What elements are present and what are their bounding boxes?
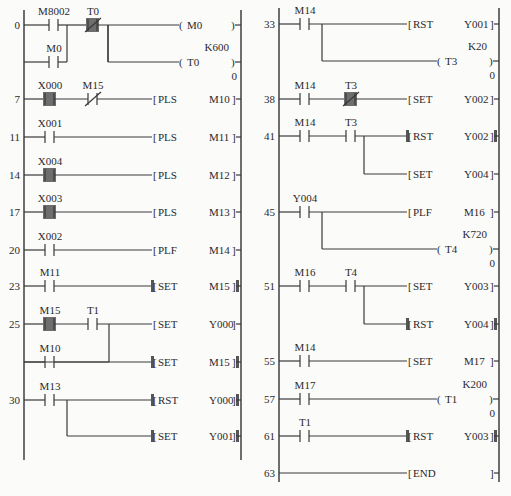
instruction-label: PLS bbox=[158, 93, 177, 105]
step-number: 30 bbox=[9, 394, 21, 406]
step-number: 17 bbox=[9, 206, 21, 218]
func-close-bracket: ] bbox=[490, 355, 494, 367]
output-pls: [PLSM11] bbox=[54, 131, 241, 143]
step-number: 61 bbox=[264, 430, 275, 442]
step-number: 51 bbox=[264, 280, 275, 292]
contact-t3: T3 bbox=[343, 79, 359, 106]
func-close-bracket: ] bbox=[490, 430, 494, 442]
func-open-bracket: [ bbox=[408, 318, 412, 330]
operand-label: M16 bbox=[464, 206, 485, 218]
instruction-label: PLF bbox=[158, 244, 177, 256]
instruction-label: END bbox=[413, 467, 436, 479]
output-set: [SETY000] bbox=[97, 318, 241, 330]
operand-label: Y002 bbox=[464, 93, 488, 105]
output-end: [END] bbox=[279, 467, 499, 479]
rung-step-20: 20X002[PLFM14] bbox=[9, 230, 241, 256]
contact-label: X003 bbox=[38, 192, 63, 204]
contact-label: X001 bbox=[38, 117, 62, 129]
operand-label: Y001 bbox=[464, 18, 488, 30]
contact-t3: T3 bbox=[345, 116, 358, 142]
func-close-bracket: ] bbox=[490, 280, 494, 292]
contact-label: M15 bbox=[40, 304, 61, 316]
output-t0: (T0)K6000 bbox=[108, 41, 241, 82]
step-number: 41 bbox=[264, 130, 275, 142]
func-close-bracket: ] bbox=[490, 318, 494, 330]
output-pls: [PLSM10] bbox=[97, 93, 241, 105]
output-set: [SETM15] bbox=[24, 356, 241, 368]
contact-m17: M17 bbox=[295, 379, 316, 405]
contact-label: M17 bbox=[295, 379, 316, 391]
instruction-label: RST bbox=[413, 318, 433, 330]
output-pls: [PLSM12] bbox=[54, 169, 241, 181]
step-number: 57 bbox=[264, 393, 276, 405]
rung-step-25: 25M15T1M10[SETY000][SETM15] bbox=[9, 304, 241, 368]
timer-current-value: 0 bbox=[490, 257, 496, 269]
rung-step-14: 14X004[PLSM12] bbox=[9, 155, 241, 182]
operand-label: Y004 bbox=[464, 318, 489, 330]
timer-current-value: 0 bbox=[232, 70, 238, 82]
operand-label: Y000 bbox=[209, 394, 234, 406]
contact-label: X004 bbox=[38, 155, 63, 167]
rung-step-17: 17X003[PLSM13] bbox=[9, 192, 241, 219]
output-set: [SETY002] bbox=[355, 93, 499, 105]
rung-step-0: 0M8002T0M0(M0)(T0)K6000 bbox=[15, 5, 242, 82]
coil-close-paren: ) bbox=[489, 243, 493, 256]
output-m0: (M0) bbox=[97, 19, 241, 32]
func-close-bracket: ] bbox=[232, 280, 236, 292]
timer-constant: K600 bbox=[205, 41, 230, 53]
operand-label: Y000 bbox=[209, 318, 234, 330]
contact-x002: X002 bbox=[38, 230, 62, 256]
rung-step-30: 30M13[RSTY000][SETY001] bbox=[9, 380, 241, 442]
contact-label: M8002 bbox=[38, 5, 70, 17]
contact-x004: X004 bbox=[38, 155, 63, 182]
instruction-label: PLS bbox=[158, 131, 177, 143]
rung-step-57: 57M17(T1)K2000 bbox=[264, 378, 499, 419]
func-open-bracket: [ bbox=[153, 93, 157, 105]
func-close-bracket: ] bbox=[232, 206, 236, 218]
step-number: 55 bbox=[264, 355, 276, 367]
coil-label: T1 bbox=[445, 393, 457, 405]
step-number: 25 bbox=[9, 318, 21, 330]
output-pls: [PLSM13] bbox=[54, 206, 241, 218]
func-open-bracket: [ bbox=[408, 18, 412, 30]
output-t4: (T4)K7200 bbox=[322, 228, 499, 269]
step-number: 14 bbox=[9, 169, 21, 181]
rung-step-45: 45Y004[PLFM16](T4)K7200 bbox=[264, 192, 499, 269]
output-rst: [RSTY004] bbox=[364, 318, 499, 330]
contact-label: M14 bbox=[295, 116, 316, 128]
coil-open-paren: ( bbox=[437, 393, 441, 406]
contact-label: M10 bbox=[40, 342, 61, 354]
instruction-label: SET bbox=[158, 430, 178, 442]
rung-step-51: 51M16T4[SETY003][RSTY004] bbox=[264, 266, 499, 330]
output-set: [SETY003] bbox=[355, 280, 499, 292]
instruction-label: SET bbox=[413, 355, 433, 367]
func-open-bracket: [ bbox=[153, 280, 157, 292]
coil-open-paren: ( bbox=[437, 243, 441, 256]
func-open-bracket: [ bbox=[408, 467, 412, 479]
contact-t1: T1 bbox=[299, 416, 311, 442]
operand-label: Y004 bbox=[464, 168, 489, 180]
output-rst: [RSTY001] bbox=[309, 18, 499, 30]
func-open-bracket: [ bbox=[153, 318, 157, 330]
func-close-bracket: ] bbox=[232, 131, 236, 143]
step-number: 7 bbox=[15, 93, 21, 105]
coil-label: T4 bbox=[445, 243, 458, 255]
operand-label: M15 bbox=[209, 356, 230, 368]
rung-step-33: 33M14[RSTY001](T3)K200 bbox=[264, 4, 499, 81]
contact-m14: M14 bbox=[295, 341, 316, 367]
contact-m8002: M8002 bbox=[38, 5, 70, 31]
operand-label: M15 bbox=[209, 280, 230, 292]
contact-m14: M14 bbox=[295, 79, 316, 105]
ladder-diagram-canvas: 0M8002T0M0(M0)(T0)K60007X000M15[PLSM10]1… bbox=[0, 0, 511, 496]
operand-label: M12 bbox=[209, 169, 230, 181]
timer-current-value: 0 bbox=[490, 407, 496, 419]
instruction-label: RST bbox=[413, 130, 433, 142]
func-open-bracket: [ bbox=[408, 93, 412, 105]
func-close-bracket: ] bbox=[232, 244, 236, 256]
contact-label: M14 bbox=[295, 79, 316, 91]
instruction-label: PLF bbox=[413, 206, 432, 218]
output-set: [SETY004] bbox=[364, 168, 499, 180]
func-close-bracket: ] bbox=[490, 130, 494, 142]
instruction-label: PLS bbox=[158, 206, 177, 218]
instruction-label: SET bbox=[413, 93, 433, 105]
